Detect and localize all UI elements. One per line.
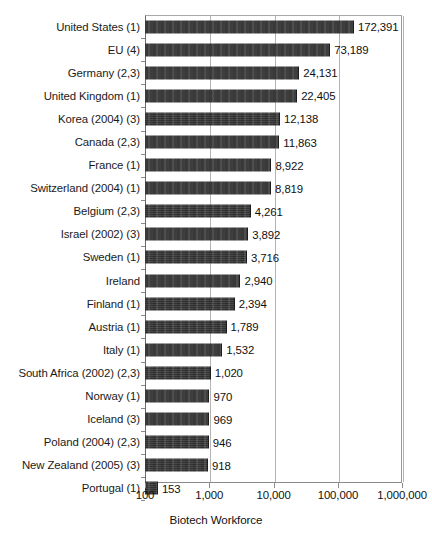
bar-value-label: 153 — [162, 482, 181, 494]
bar-row: EU (4)73,189 — [0, 38, 432, 61]
x-axis-tick-label: 100,000 — [318, 489, 358, 501]
category-label: Germany (2,3) — [68, 67, 140, 79]
bar-and-value: 970 — [145, 390, 232, 403]
y-axis-tick — [141, 269, 145, 270]
bar-row: Ireland2,940 — [0, 269, 432, 292]
y-axis-tick — [141, 292, 145, 293]
bar-value-label: 172,391 — [358, 21, 398, 33]
category-label: Israel (2002) (3) — [61, 228, 140, 240]
bar-value-label: 11,863 — [283, 136, 316, 148]
category-label: Portugal (1) — [82, 482, 140, 494]
bar-and-value: 3,716 — [145, 251, 279, 264]
category-label: Norway (1) — [85, 390, 140, 402]
bar-and-value: 12,138 — [145, 112, 318, 125]
bar-value-label: 2,940 — [244, 275, 272, 287]
bar-value-label: 1,789 — [231, 321, 259, 333]
bar-row: New Zealand (2005) (3)918 — [0, 454, 432, 477]
category-label: Korea (2004) (3) — [58, 113, 140, 125]
category-label: South Africa (2002) (2,3) — [18, 367, 140, 379]
bar-row: Korea (2004) (3)12,138 — [0, 107, 432, 130]
bar-and-value: 1,532 — [145, 343, 254, 356]
bar — [145, 320, 227, 333]
bar-value-label: 918 — [212, 459, 231, 471]
bar — [145, 251, 247, 264]
bar-row: Switzerland (2004) (1)8,819 — [0, 177, 432, 200]
bar-value-label: 3,892 — [252, 228, 280, 240]
bar-and-value: 8,819 — [145, 182, 303, 195]
bar-row: South Africa (2002) (2,3)1,020 — [0, 361, 432, 384]
bar-and-value: 1,789 — [145, 320, 259, 333]
bar — [145, 43, 330, 56]
category-label: EU (4) — [108, 44, 140, 56]
category-label: United States (1) — [56, 21, 140, 33]
bar-rows: United States (1)172,391EU (4)73,189Germ… — [0, 15, 432, 500]
bar — [145, 343, 222, 356]
bar-row: Germany (2,3)24,131 — [0, 61, 432, 84]
category-label: Switzerland (2004) (1) — [30, 182, 140, 194]
x-axis-tick-label: 10,000 — [256, 489, 290, 501]
bar — [145, 205, 251, 218]
bar-and-value: 2,394 — [145, 297, 267, 310]
x-axis-tick-label: 1,000,000 — [377, 489, 427, 501]
bar — [145, 228, 248, 241]
bar-and-value: 11,863 — [145, 136, 317, 149]
y-axis-tick — [141, 385, 145, 386]
category-label: Poland (2004) (2,3) — [44, 436, 140, 448]
bar-value-label: 8,922 — [275, 159, 303, 171]
bar-and-value: 8,922 — [145, 159, 303, 172]
bar-row: United Kingdom (1)22,405 — [0, 84, 432, 107]
category-label: Belgium (2,3) — [74, 205, 140, 217]
x-axis-tick-label: 1,000 — [195, 489, 223, 501]
y-axis-tick — [141, 107, 145, 108]
bar-row: Belgium (2,3)4,261 — [0, 200, 432, 223]
bar-value-label: 73,189 — [334, 44, 368, 56]
bar — [145, 297, 235, 310]
bar — [145, 159, 271, 172]
bar — [145, 366, 211, 379]
bar — [145, 182, 271, 195]
y-axis-tick — [141, 38, 145, 39]
x-axis-tick-1000 — [209, 483, 210, 488]
y-axis-tick — [141, 154, 145, 155]
category-label: Ireland — [106, 275, 140, 287]
bar-row: Finland (1)2,394 — [0, 292, 432, 315]
bar-value-label: 12,138 — [284, 113, 318, 125]
bar-and-value: 172,391 — [145, 20, 399, 33]
bar — [145, 66, 299, 79]
bar-and-value: 1,020 — [145, 366, 243, 379]
bar-and-value: 22,405 — [145, 89, 335, 102]
bar-and-value: 946 — [145, 436, 231, 449]
y-axis-tick — [141, 315, 145, 316]
category-label: Finland (1) — [87, 298, 140, 310]
bar-and-value: 73,189 — [145, 43, 368, 56]
bar-value-label: 4,261 — [255, 205, 283, 217]
bar-row: Italy (1)1,532 — [0, 338, 432, 361]
category-label: Austria (1) — [89, 321, 140, 333]
bar-and-value: 918 — [145, 459, 231, 472]
bar-row: Norway (1)970 — [0, 385, 432, 408]
y-axis-tick — [141, 500, 145, 501]
bar — [145, 413, 209, 426]
bar-row: Canada (2,3)11,863 — [0, 130, 432, 153]
y-axis-tick — [141, 362, 145, 363]
bar-row: Austria (1)1,789 — [0, 315, 432, 338]
y-axis-tick — [141, 246, 145, 247]
x-axis-tick-label: 100 — [136, 489, 155, 501]
category-label: France (1) — [88, 159, 140, 171]
category-label: Canada (2,3) — [75, 136, 140, 148]
category-label: New Zealand (2005) (3) — [22, 459, 140, 471]
bar-row: France (1)8,922 — [0, 154, 432, 177]
bar — [145, 459, 208, 472]
biotech-workforce-bar-chart: United States (1)172,391EU (4)73,189Germ… — [0, 0, 432, 540]
category-label: Iceland (3) — [87, 413, 140, 425]
bar-value-label: 2,394 — [239, 298, 267, 310]
bar-value-label: 970 — [213, 390, 232, 402]
bar-row: Iceland (3)969 — [0, 408, 432, 431]
bar-and-value: 24,131 — [145, 66, 337, 79]
x-axis-tick-10000 — [274, 483, 275, 488]
bar-row: United States (1)172,391 — [0, 15, 432, 38]
y-axis-tick — [141, 223, 145, 224]
bar-and-value: 3,892 — [145, 228, 280, 241]
category-label: Italy (1) — [103, 344, 140, 356]
bar-row: Israel (2002) (3)3,892 — [0, 223, 432, 246]
